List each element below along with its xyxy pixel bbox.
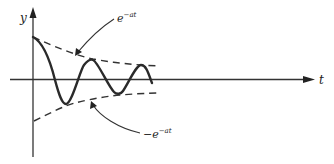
damped-signal-curve — [33, 37, 152, 104]
upper-envelope-curve — [33, 37, 160, 66]
lower-label-exponent: −at — [159, 127, 172, 135]
upper-label-exponent: −at — [124, 11, 137, 19]
y-axis — [30, 7, 37, 157]
x-axis-label: t — [319, 73, 324, 87]
lower-envelope-curve — [34, 93, 158, 121]
x-axis-arrowhead-icon — [303, 76, 315, 83]
lower-envelope-label: −e−at — [143, 127, 172, 141]
upper-envelope-pointer — [75, 19, 114, 56]
y-axis-label: y — [19, 11, 27, 25]
lower-label-prefix: − — [143, 128, 152, 141]
y-axis-arrowhead-icon — [30, 7, 37, 18]
damped-oscillation-figure: y t e−at −e−at — [0, 0, 334, 164]
lower-envelope-pointer — [90, 101, 140, 133]
upper-envelope-label: e−at — [117, 11, 137, 25]
lower-pointer-arrowhead-icon — [90, 101, 97, 109]
